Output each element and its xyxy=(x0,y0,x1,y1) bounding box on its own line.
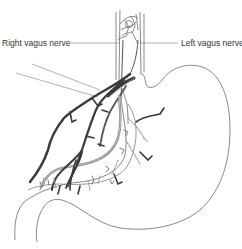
pointer-line-upper xyxy=(32,64,100,90)
left-vagus-nerve-label: Left vagus nerve xyxy=(181,38,242,48)
nerve-branches xyxy=(58,98,164,194)
label-leader-lines xyxy=(16,43,178,97)
vagus-nerve-diagram: Right vagus nerve Left vagus nerve xyxy=(0,0,242,249)
right-vagus-nerve-label: Right vagus nerve xyxy=(2,38,71,48)
small-twigs xyxy=(40,130,128,190)
nerve-trunks xyxy=(30,74,134,190)
pointer-line-lower xyxy=(16,73,98,97)
